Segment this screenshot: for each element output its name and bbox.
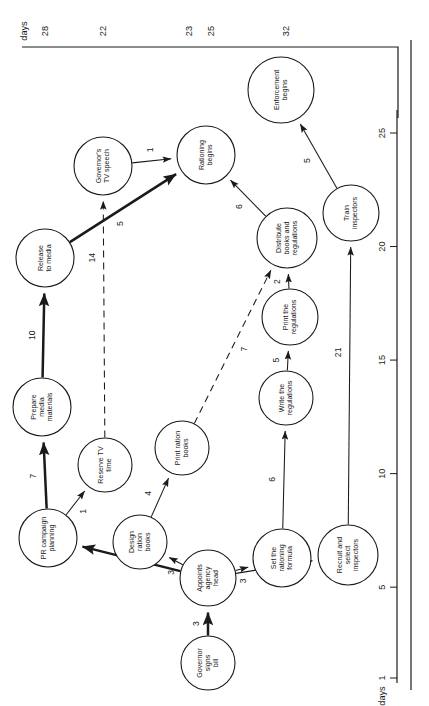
bottom-axis-label-10: 10 <box>377 469 387 479</box>
node-label-line: PR campaign <box>40 517 48 560</box>
bottom-axis-label-20: 20 <box>377 241 387 251</box>
node-release_to_media[interactable]: Releaseto media <box>16 229 74 287</box>
edge-weight-appoints_agency_head-to-set_rationing_formula: 3 <box>238 578 248 583</box>
node-label-line: begins <box>281 79 289 100</box>
edge-weight-recruit_inspectors-to-train_inspectors: 21 <box>333 347 343 357</box>
edge-appoints_agency_head-to-design_ration_books <box>169 557 183 564</box>
bottom-axis-label-25: 25 <box>377 128 387 138</box>
node-label-line: bill <box>212 658 220 667</box>
node-label-line: ration <box>136 533 144 551</box>
node-label-line: time <box>105 458 113 471</box>
node-label-line: Reserve TV <box>97 446 105 484</box>
node-label-set_rationing_formula: Set therationingformula <box>270 544 294 571</box>
edge-weight-set_rationing_formula-to-write_regulations: 6 <box>267 477 277 482</box>
node-label-line: Governor's <box>95 148 103 183</box>
node-label-line: regulations <box>290 299 298 334</box>
edge-weight-appoints_agency_head-to-design_ration_books: 3 <box>166 570 176 575</box>
node-label-line: books <box>182 438 190 457</box>
node-label-distribute_books: Distributebooks andregulations <box>275 220 299 255</box>
edge-weight-governor_signs_bill-to-appoints_agency_head: 3 <box>191 621 201 626</box>
node-label-line: Write the <box>278 384 286 412</box>
node-label-line: materials <box>46 392 54 421</box>
node-design_ration_books[interactable]: Designrationbooks <box>113 515 167 569</box>
edge-weight-print_ration_books-to-distribute_books: 7 <box>239 346 249 351</box>
node-label-line: rationing <box>278 544 286 571</box>
edge-recruit_inspectors-to-train_inspectors <box>348 247 350 525</box>
node-label-line: Distribute <box>275 223 283 253</box>
node-label-design_ration_books: Designrationbooks <box>128 531 152 553</box>
node-label-line: head <box>212 570 220 586</box>
node-label-line: Print ration <box>174 431 182 465</box>
bottom-axis-caption: days <box>377 686 387 706</box>
node-train_inspectors[interactable]: Traininspectors <box>323 185 379 241</box>
edge-weight-train_inspectors-to-enforcement_begins: 5 <box>302 158 312 163</box>
network-diagram-canvas: days28222325321510152025days 33333711014… <box>0 0 429 706</box>
node-label-line: Enforcement <box>273 70 281 110</box>
edge-write_regulations-to-print_regulations <box>287 351 288 371</box>
node-enforcement_begins[interactable]: Enforcementbegins <box>248 57 314 123</box>
node-label-line: Design <box>128 531 136 553</box>
node-label-line: TV speech <box>103 149 111 183</box>
node-rationing_begins[interactable]: Rationingbegins <box>177 126 235 184</box>
bottom-axis-label-15: 15 <box>377 355 387 365</box>
node-set_rationing_formula[interactable]: Set therationingformula <box>253 529 311 587</box>
node-label-line: agency <box>204 566 212 589</box>
edge-set_rationing_formula-to-write_regulations <box>283 431 285 529</box>
edge-weight-reserve_tv_time-to-governors_tv_speech: 14 <box>87 253 97 263</box>
node-label-line: regulations <box>286 380 294 415</box>
edge-weight-prepare_media-to-release_to_media: 10 <box>27 330 37 340</box>
node-appoints_agency_head[interactable]: Appointsagencyhead <box>180 550 236 606</box>
node-label-line: planning <box>48 525 56 552</box>
node-label-release_to_media: Releaseto media <box>37 244 53 271</box>
top-axis-value-3: 25 <box>206 26 216 36</box>
node-label-governors_tv_speech: Governor'sTV speech <box>95 148 111 183</box>
edge-weight-write_regulations-to-print_regulations: 5 <box>271 358 281 363</box>
edge-weight-release_to_media-to-rationing_begins: 5 <box>115 221 125 226</box>
edge-design_ration_books-to-print_ration_books <box>151 478 168 517</box>
network-diagram-figure: days28222325321510152025days 33333711014… <box>0 0 429 706</box>
node-label-line: inspectors <box>351 196 359 229</box>
node-print_ration_books[interactable]: Print rationbooks <box>155 421 209 475</box>
edge-appoints_agency_head-to-set_rationing_formula <box>236 567 249 570</box>
node-label-print_regulations: Print theregulations <box>282 299 298 334</box>
edge-weight-print_regulations-to-distribute_books: 2 <box>272 279 282 284</box>
edge-governors_tv_speech-to-rationing_begins <box>132 159 171 163</box>
node-label-line: Rationing <box>198 140 206 170</box>
node-label-line: Appoints <box>196 564 204 592</box>
node-label-line: Train <box>343 205 351 221</box>
node-label-line: Set the <box>270 547 278 570</box>
node-pr_campaign_planning[interactable]: PR campaignplanning <box>19 509 77 567</box>
edge-weight-governors_tv_speech-to-rationing_begins: 1 <box>145 147 155 152</box>
node-label-line: Prepare <box>30 394 38 419</box>
node-prepare_media[interactable]: Preparemediamaterials <box>13 378 71 436</box>
node-print_regulations[interactable]: Print theregulations <box>262 289 318 345</box>
node-label-line: select <box>344 546 352 565</box>
top-axis-value-2: 23 <box>184 26 194 36</box>
node-recruit_inspectors[interactable]: Recruit andselectinspectors <box>318 525 378 585</box>
node-label-line: formula <box>286 546 294 570</box>
node-label-line: Release <box>37 245 45 271</box>
node-label-line: media <box>38 397 46 416</box>
node-label-line: books and <box>283 222 291 255</box>
node-label-line: to media <box>45 244 53 271</box>
node-label-line: Print the <box>282 304 290 330</box>
edge-prepare_media-to-release_to_media <box>43 293 45 377</box>
node-label-line: Governor <box>196 648 204 678</box>
edge-pr_campaign_planning-to-prepare_media <box>44 442 47 508</box>
node-write_regulations[interactable]: Write theregulations <box>259 371 313 425</box>
edge-weight-distribute_books-to-rationing_begins: 6 <box>234 204 244 209</box>
node-reserve_tv_time[interactable]: Reserve TVtime <box>78 438 132 492</box>
top-axis-caption: days <box>19 21 29 41</box>
node-governors_tv_speech[interactable]: Governor'sTV speech <box>74 137 132 195</box>
node-distribute_books[interactable]: Distributebooks andregulations <box>257 208 317 268</box>
edge-weight-design_ration_books-to-print_ration_books: 4 <box>143 491 153 496</box>
node-label-line: begins <box>206 144 214 165</box>
edge-weight-pr_campaign_planning-to-prepare_media: 7 <box>28 473 38 478</box>
edge-distribute_books-to-rationing_begins <box>230 180 265 216</box>
node-label-write_regulations: Write theregulations <box>278 380 294 415</box>
node-governor_signs_bill[interactable]: Governorsignsbill <box>181 636 235 690</box>
bottom-axis-label-1: 1 <box>377 675 387 680</box>
node-label-line: regulations <box>291 220 299 255</box>
top-axis-value-4: 32 <box>281 26 291 36</box>
node-label-line: Recruit and <box>336 537 344 573</box>
